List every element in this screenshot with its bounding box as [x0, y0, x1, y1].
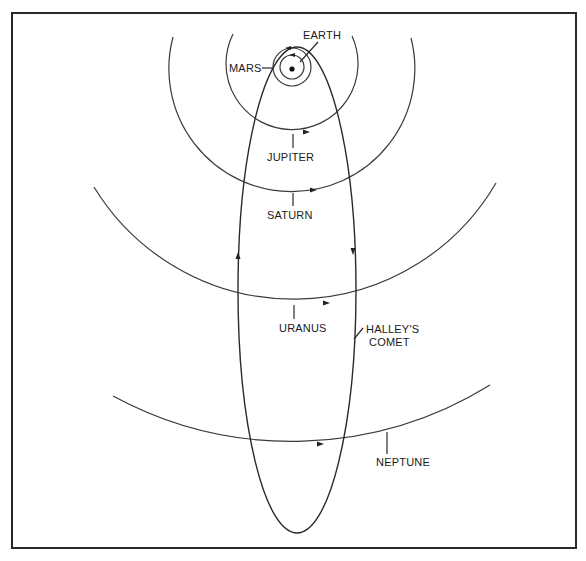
saturn-direction-arrow-icon [310, 188, 317, 193]
comet-label-line2: COMET [369, 336, 410, 348]
neptune-label: NEPTUNE [376, 456, 430, 468]
saturn-label: SATURN [267, 209, 313, 221]
comet-label-line1: HALLEY'S [366, 323, 419, 335]
comet-direction-arrow-up-icon [236, 252, 241, 259]
mars-label: MARS [229, 62, 262, 74]
saturn-orbit [169, 37, 415, 192]
neptune-orbit [113, 385, 490, 441]
sun-icon [289, 66, 294, 71]
uranus-orbit [94, 183, 496, 299]
uranus-label: URANUS [279, 322, 327, 334]
jupiter-direction-arrow-icon [303, 130, 310, 135]
halleys-comet-orbit [238, 47, 356, 533]
earth-direction-arrow-icon [289, 53, 295, 57]
diagram-frame [12, 13, 576, 548]
earth-label: EARTH [303, 29, 341, 41]
uranus-direction-arrow-icon [323, 301, 330, 306]
jupiter-label: JUPITER [267, 151, 314, 163]
neptune-direction-arrow-icon [317, 442, 324, 447]
solar-system-diagram: EARTH MARS JUPITER SATURN URANUS HALLEY'… [0, 0, 586, 561]
